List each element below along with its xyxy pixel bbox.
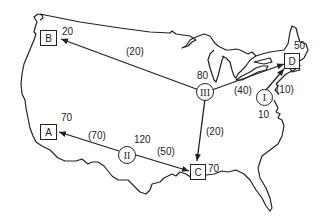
- flow-label-III-B: (20): [126, 47, 144, 57]
- demand-label-A: 70: [61, 113, 72, 123]
- flow-II-C: [136, 155, 189, 171]
- destination-node-B: B: [40, 30, 57, 46]
- flow-label-III-C: (20): [206, 127, 224, 137]
- source-node-I: I: [256, 89, 273, 106]
- supply-label-II: 120: [134, 135, 151, 145]
- demand-label-B: 20: [62, 27, 73, 37]
- flow-label-II-C: (50): [157, 147, 175, 157]
- flow-III-C: [197, 99, 205, 161]
- demand-label-C: 70: [208, 164, 219, 174]
- flow-label-II-A: (70): [88, 131, 106, 141]
- supply-label-III: 80: [197, 71, 208, 81]
- destination-node-C: C: [190, 164, 206, 180]
- source-node-III: III: [196, 83, 214, 101]
- supply-label-I: 10: [258, 110, 269, 120]
- destination-node-D: D: [284, 53, 300, 69]
- flow-label-III-D: (40): [234, 86, 252, 96]
- demand-label-D: 50: [294, 41, 305, 51]
- destination-node-A: A: [40, 124, 57, 140]
- flow-label-I-D: (10): [276, 85, 294, 95]
- source-node-II: II: [118, 146, 136, 164]
